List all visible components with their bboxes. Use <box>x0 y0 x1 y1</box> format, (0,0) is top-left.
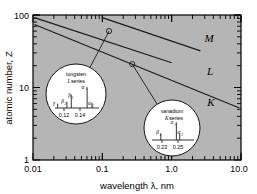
vanadium-peak-label-alpha2: α <box>178 129 181 135</box>
series-label-m: M <box>203 32 214 44</box>
tungsten-peak-label-alpha2: α <box>88 100 91 106</box>
vanadium-inset: vanadium K series 0.23 0.25 β 1 α 1 α 2 <box>144 100 200 156</box>
chart-canvas: M L K tungsten L series 0.12 0.14 γ β 2 … <box>0 0 257 194</box>
series-label-k: K <box>206 96 215 108</box>
vanadium-peak-sub-alpha1: 1 <box>174 123 176 127</box>
vanadium-inset-tick-label-high: 0.25 <box>173 144 184 150</box>
vanadium-inset-element-label: vanadium <box>161 108 184 114</box>
vanadium-inset-tick-label-low: 0.23 <box>157 144 168 150</box>
tungsten-peak-sub-alpha2: 2 <box>92 104 94 108</box>
y-tick-label-100: 100 <box>14 11 29 21</box>
tungsten-inset-element-label: tungsten <box>66 71 86 77</box>
tungsten-inset-series-letter: L <box>67 78 71 84</box>
series-label-l: L <box>206 65 213 77</box>
vanadium-peak-sub-beta1: 1 <box>160 133 162 137</box>
y-tick-label-1: 1 <box>24 155 29 165</box>
x-tick-label-2: 1.0 <box>165 164 178 174</box>
tungsten-inset: tungsten L series 0.12 0.14 γ β 2 β 1 α … <box>46 64 106 124</box>
x-axis-title: wavelength λ, nm <box>99 180 174 191</box>
tungsten-peak-sub-beta1: 1 <box>72 96 74 100</box>
x-tick-label-3: 10.0 <box>230 164 248 174</box>
vanadium-peak-sub-alpha2: 2 <box>181 133 183 137</box>
x-tick-label-0: 0.01 <box>24 164 42 174</box>
y-axis-title: atomic number, Z <box>3 51 14 125</box>
tungsten-peak-sub-alpha1: 1 <box>85 87 87 91</box>
x-tick-label-1: 0.1 <box>96 164 109 174</box>
tungsten-peak-sub-beta2: 2 <box>65 102 67 106</box>
tungsten-inset-tick-label-high: 0.14 <box>75 112 86 118</box>
tungsten-peak-label-alpha1: α <box>82 84 85 90</box>
tungsten-inset-tick-label-low: 0.12 <box>59 112 70 118</box>
y-tick-label-10: 10 <box>19 83 29 93</box>
vanadium-peak-label-alpha1: α <box>171 119 174 125</box>
moseley-plot-figure: M L K tungsten L series 0.12 0.14 γ β 2 … <box>0 0 257 194</box>
